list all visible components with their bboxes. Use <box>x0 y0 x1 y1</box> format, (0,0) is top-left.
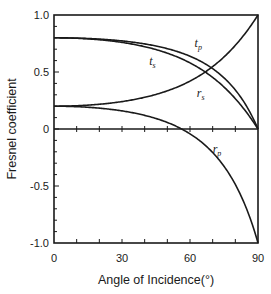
x-tick-label: 90 <box>252 252 264 264</box>
y-tick-label: 0.5 <box>34 66 49 78</box>
label-t-p: tp <box>195 36 202 52</box>
x-tick-label: 60 <box>184 252 196 264</box>
curve-t-s <box>54 38 258 129</box>
curve-r-p <box>54 106 258 243</box>
curve-t-p <box>54 38 258 129</box>
x-tick-label: 30 <box>116 252 128 264</box>
label-r-p: rp <box>213 142 222 158</box>
label-r-s: rs <box>197 86 205 102</box>
fresnel-chart: 1.00.50-0.5-1.0 0306090 tptsrsrp Angle o… <box>0 0 271 294</box>
axis-ticks <box>54 26 235 243</box>
y-tick-label: -0.5 <box>30 180 49 192</box>
y-tick-labels: 1.00.50-0.5-1.0 <box>30 9 49 249</box>
x-tick-labels: 0306090 <box>51 252 264 264</box>
label-t-s: ts <box>149 54 155 70</box>
y-tick-label: -1.0 <box>30 237 49 249</box>
x-tick-label: 0 <box>51 252 57 264</box>
y-tick-label: 1.0 <box>34 9 49 21</box>
y-axis-title: Fresnel coefficient <box>5 78 19 180</box>
curve-r-s <box>54 15 258 106</box>
x-axis-title: Angle of Incidence(°) <box>98 273 214 287</box>
y-tick-label: 0 <box>43 123 49 135</box>
